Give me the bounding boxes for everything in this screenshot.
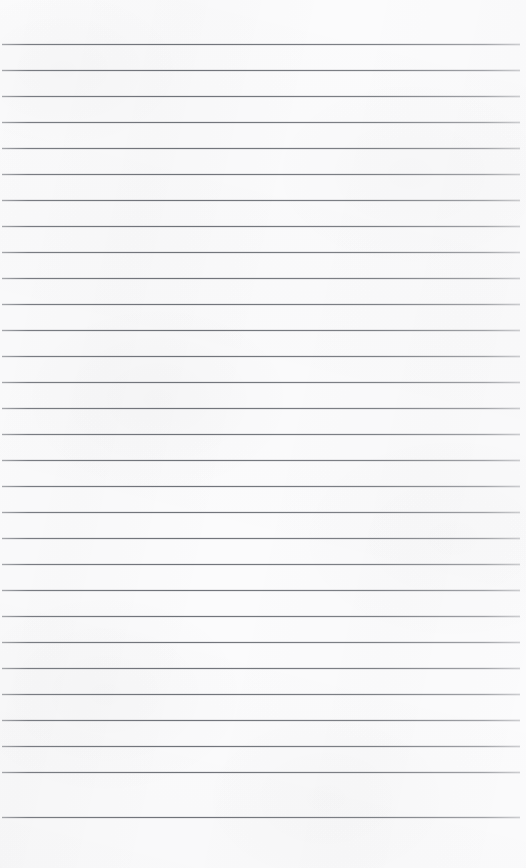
ruled-line xyxy=(2,668,520,669)
ruled-line xyxy=(2,434,520,435)
ruled-line xyxy=(2,817,520,818)
ruled-line xyxy=(2,512,520,513)
scanned-lined-paper-page xyxy=(0,0,526,868)
ruled-line xyxy=(2,460,520,461)
ruled-line xyxy=(2,330,520,331)
ruled-line xyxy=(2,616,520,617)
ruled-line xyxy=(2,694,520,695)
ruled-line xyxy=(2,382,520,383)
ruled-line xyxy=(2,772,520,773)
ruled-line xyxy=(2,148,520,149)
ruled-line xyxy=(2,538,520,539)
ruled-line xyxy=(2,252,520,253)
ruled-line xyxy=(2,304,520,305)
ruled-lines-group xyxy=(0,0,526,868)
ruled-line xyxy=(2,642,520,643)
ruled-line xyxy=(2,278,520,279)
ruled-line xyxy=(2,70,520,71)
ruled-line xyxy=(2,590,520,591)
ruled-line xyxy=(2,486,520,487)
ruled-line xyxy=(2,200,520,201)
ruled-line xyxy=(2,122,520,123)
ruled-line xyxy=(2,174,520,175)
ruled-line xyxy=(2,44,520,45)
ruled-line xyxy=(2,226,520,227)
ruled-line xyxy=(2,564,520,565)
ruled-line xyxy=(2,356,520,357)
ruled-line xyxy=(2,408,520,409)
ruled-line xyxy=(2,746,520,747)
ruled-line xyxy=(2,96,520,97)
ruled-line xyxy=(2,720,520,721)
